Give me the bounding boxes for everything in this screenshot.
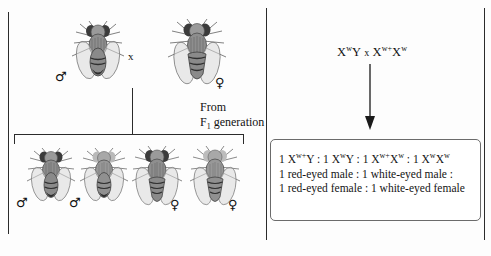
parent-female-sex-symbol: ♀ — [215, 76, 225, 89]
parent-male-fly-icon — [62, 14, 134, 86]
ratio-term-3: 1 Xw+Xw — [363, 153, 404, 165]
parent-male-sex-symbol: ♂ — [55, 70, 67, 83]
offspring-fly-icon-3 — [124, 140, 190, 212]
ratio-separator-3: : — [404, 153, 413, 165]
f1-generation-caption: From F1 generation — [200, 100, 264, 132]
caption-line-2: F1 generation — [200, 115, 264, 129]
genotype-cross-operator: x — [361, 47, 372, 58]
genotype-female-parent: Xw+Xw — [372, 45, 407, 59]
offspring-sex-symbol-2: ♂ — [69, 196, 81, 209]
figure-left-rule — [8, 12, 9, 234]
genotype-cross-expression: XwYxXw+Xw — [337, 44, 407, 60]
ratio-separator-1: : — [314, 153, 323, 165]
f2-phenotype-line-2: 1 red-eyed female : 1 white-eyed female — [279, 183, 465, 195]
pedigree-vertical-stem — [132, 88, 133, 134]
f2-phenotype-line-1: 1 red-eyed male : 1 white-eyed male : — [279, 169, 453, 181]
offspring-sex-symbol-4: ♀ — [228, 198, 238, 211]
genotype-male-parent: XwY — [337, 45, 361, 59]
ratio-term-2: 1 XwY — [323, 153, 354, 165]
down-arrow-icon — [363, 64, 377, 130]
ratio-term-4: 1 XwXw — [413, 153, 450, 165]
figure-right-rule — [484, 8, 485, 240]
offspring-sex-symbol-1: ♂ — [16, 196, 28, 209]
parent-cross-symbol: x — [128, 50, 134, 62]
figure-center-divider — [266, 8, 267, 240]
caption-line-1: From — [200, 100, 226, 114]
ratio-separator-2: : — [354, 153, 363, 165]
genetics-figure: ♂ x ♀ — [0, 0, 491, 256]
ratio-term-1: 1 Xw+Y — [279, 153, 314, 165]
offspring-sex-symbol-3: ♀ — [170, 198, 180, 211]
f2-genotype-ratio-line: 1 Xw+Y : 1 XwY : 1 Xw+Xw : 1 XwXw — [279, 152, 450, 165]
offspring-fly-icon-4 — [182, 140, 248, 212]
